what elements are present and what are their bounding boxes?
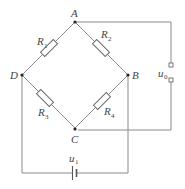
resistor-R3-label: R	[37, 106, 45, 118]
circuit-svg: A D B C R 1 R 2 R 3 R 4 u 0 u 1	[0, 0, 185, 189]
node-C-dot	[73, 127, 76, 130]
node-D-dot	[20, 73, 23, 76]
output-voltage-subscript: 0	[164, 73, 168, 81]
wire-A-output	[75, 22, 171, 64]
resistor-R4-label: R	[103, 105, 111, 117]
resistor-R4-subscript: 4	[111, 112, 115, 120]
resistor-R1-subscript: 1	[44, 42, 48, 50]
node-D-label: D	[9, 69, 18, 81]
resistor-R2-label: R	[100, 28, 108, 40]
output-terminal-bottom-icon	[169, 78, 173, 82]
node-B-label: B	[132, 69, 139, 81]
resistor-R3-subscript: 3	[45, 113, 49, 121]
wire-B-source	[77, 75, 128, 173]
bridge-circuit-diagram: A D B C R 1 R 2 R 3 R 4 u 0 u 1	[0, 0, 185, 189]
wire-D-source	[22, 75, 72, 173]
source-voltage-subscript: 1	[75, 158, 79, 166]
node-A-dot	[73, 20, 76, 23]
resistor-R2-subscript: 2	[108, 35, 112, 43]
node-A-label: A	[70, 7, 78, 19]
output-terminal-top-icon	[169, 63, 173, 67]
resistor-R1-label: R	[36, 35, 44, 47]
node-B-dot	[126, 73, 129, 76]
resistor-R3-icon	[37, 90, 54, 107]
wire-C-output	[78, 81, 171, 130]
node-C-label: C	[71, 133, 79, 145]
resistor-R2-icon	[93, 40, 110, 57]
